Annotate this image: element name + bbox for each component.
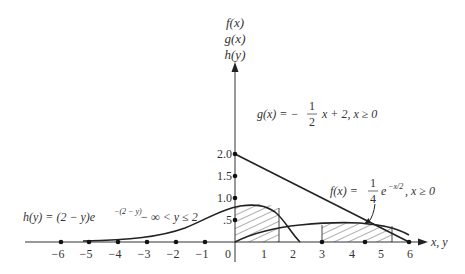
svg-text:1: 1: [309, 99, 315, 113]
g-annotation: g(x) = − 1 2 x + 2, x ≥ 0: [257, 99, 377, 129]
x-tick-label: 6: [407, 247, 413, 261]
svg-text:−x/2: −x/2: [388, 182, 403, 191]
x-tick-label: −5: [80, 247, 93, 261]
x-tick-label: −6: [52, 247, 65, 261]
svg-text:h(y): h(y): [225, 47, 246, 62]
x-tick-label: 5: [378, 247, 384, 261]
svg-text:4: 4: [370, 192, 376, 206]
x-tick-label: −4: [109, 247, 122, 261]
svg-text:g(x) = −: g(x) = −: [257, 107, 299, 121]
x-tick-label: 1: [261, 247, 267, 261]
x-tick-labels: −6 −5 −4 −3 −2 −1 0 1 2 3 4 5 6: [52, 247, 413, 261]
f-annotation: f(x) = 1 4 e −x/2 , x ≥ 0: [330, 176, 435, 206]
svg-text:−(2 − y): −(2 − y): [114, 207, 142, 216]
x-tick-label: −3: [138, 247, 151, 261]
x-tick-label: −1: [196, 247, 209, 261]
svg-text:h(y) = (2 − y)e: h(y) = (2 − y)e: [23, 210, 96, 224]
x-axis-arrow-icon: [418, 239, 428, 246]
svg-text:x + 2, x ≥ 0: x + 2, x ≥ 0: [321, 107, 377, 121]
y-tick-label: 1.0: [217, 191, 232, 205]
svg-text:f(x) =: f(x) =: [330, 184, 358, 198]
y-tick-labels: .5 1.0 1.5 2.0: [217, 147, 232, 227]
h-annotation: h(y) = (2 − y)e −(2 − y) − ∞ < y ≤ 2: [23, 207, 198, 224]
svg-text:g(x): g(x): [225, 31, 246, 46]
y-tick-label: .5: [223, 213, 232, 227]
x-tick-label: 0: [225, 247, 231, 261]
svg-text:e: e: [381, 184, 387, 198]
svg-text:1: 1: [370, 176, 376, 190]
y-axis-title: f(x) g(x) h(y): [225, 15, 246, 62]
x-axis-title: x, y: [430, 235, 448, 249]
svg-text:2: 2: [309, 115, 315, 129]
x-tick-label: 2: [290, 247, 296, 261]
x-tick-label: 3: [319, 247, 325, 261]
svg-text:, x ≥ 0: , x ≥ 0: [405, 184, 435, 198]
x-tick-label: −2: [167, 247, 180, 261]
y-tick-label: 2.0: [217, 147, 232, 161]
chart-figure: −6 −5 −4 −3 −2 −1 0 1 2 3 4 5 6 .5 1.0 1…: [0, 0, 465, 274]
y-tick-label: 1.5: [217, 169, 232, 183]
y-axis-arrow-icon: [232, 62, 239, 72]
svg-text:− ∞ < y ≤ 2: − ∞ < y ≤ 2: [140, 210, 198, 224]
x-tick-label: 4: [349, 247, 355, 261]
svg-text:f(x): f(x): [226, 15, 244, 30]
